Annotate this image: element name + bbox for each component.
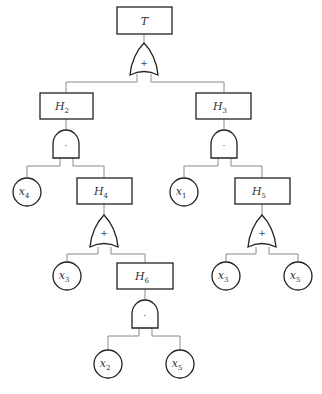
svg-text:·: · [223, 141, 226, 151]
intermediate-event-H2: H2 [40, 93, 93, 119]
basic-event-x4: x4 [13, 178, 41, 206]
basic-event-x3-left: x3 [53, 262, 81, 290]
intermediate-event-H4: H4 [77, 178, 132, 204]
intermediate-event-H3: H3 [196, 93, 251, 119]
basic-event-x1: x1 [170, 178, 198, 206]
basic-event-x2: x2 [94, 350, 122, 378]
svg-text:·: · [144, 311, 147, 321]
svg-text:·: · [65, 141, 68, 151]
svg-text:+: + [100, 228, 108, 238]
and-gate-H2: · [53, 130, 79, 158]
basic-event-x5-bottom: x5 [166, 350, 194, 378]
and-gate-H6: · [132, 300, 158, 328]
svg-text:+: + [258, 228, 266, 238]
basic-event-x5-right: x5 [284, 262, 312, 290]
or-gate-H5: + [248, 215, 276, 247]
and-gate-H3: · [211, 130, 237, 158]
or-gate-H4: + [90, 215, 118, 247]
top-event-T: T [117, 7, 172, 34]
basic-event-x3-right: x3 [212, 262, 240, 290]
intermediate-event-H5: H5 [235, 178, 290, 204]
intermediate-event-H6: H6 [117, 263, 173, 289]
svg-text:+: + [140, 58, 148, 68]
or-gate-top: + [130, 43, 158, 75]
fault-tree-diagram: T + H2 · H3 · x4 H4 + x1 [0, 0, 322, 394]
